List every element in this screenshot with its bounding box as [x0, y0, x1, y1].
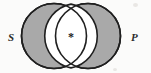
venn-diagram-figure: * S P	[0, 0, 151, 73]
label-set-p: P	[131, 31, 138, 43]
label-set-s: S	[8, 31, 14, 43]
asterisk-icon: *	[68, 30, 74, 44]
venn-diagram-canvas: * S P	[0, 0, 151, 73]
